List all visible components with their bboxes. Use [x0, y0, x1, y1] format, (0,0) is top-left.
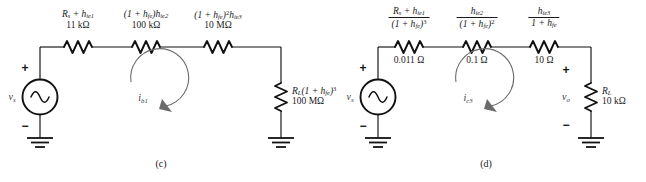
label-hie2-scaled-expr: (1 + hfe)hie2 — [124, 9, 168, 19]
fraction-3: hie3 1 + hfe — [528, 6, 559, 28]
fraction-3-denominator: 1 + hfe — [528, 18, 559, 29]
resistor-load-rl — [585, 83, 597, 111]
output-minus-sign: − — [562, 118, 569, 132]
source-plus-sign-d: + — [359, 61, 366, 75]
label-hie3-over-hfe: hie3 1 + hfe — [528, 6, 559, 28]
label-rs-hie1: Rs + hie1 11 kΩ — [62, 9, 94, 30]
panel-c: Rs + hie1 11 kΩ (1 + hfe)hie2 100 kΩ (1 … — [0, 0, 323, 182]
resistor-hie2-over-hfe2 — [463, 41, 491, 53]
label-value-0011-ohm: 0.011 Ω — [394, 55, 424, 66]
resistor-rs-hie1 — [64, 41, 92, 53]
source-minus-sign: − — [21, 119, 28, 133]
label-load-rl: RL 10 kΩ — [602, 86, 626, 106]
resistor-hie2-scaled — [132, 41, 160, 53]
loop-current-label-ic3: ic3 — [463, 92, 472, 103]
label-hie2-scaled-value: 100 kΩ — [132, 20, 160, 30]
label-load-rl-value: 10 kΩ — [602, 96, 626, 106]
resistor-load-rl-scaled — [275, 83, 287, 111]
loop-current-label-ib1: ib1 — [138, 92, 148, 103]
label-value-01-ohm: 0.1 Ω — [466, 55, 487, 66]
label-load-rl-expr: RL — [602, 86, 611, 96]
resistor-hie3-scaled — [204, 41, 232, 53]
output-plus-sign: + — [562, 63, 569, 77]
fraction-2-numerator: hie2 — [457, 6, 498, 18]
fraction-1: Rs + hie1 (1 + hfe)3 — [389, 6, 430, 29]
fraction-1-denominator: (1 + hfe)3 — [389, 18, 430, 29]
resistor-hie3-over-hfe — [530, 41, 558, 53]
label-hie3-scaled-expr: (1 + hfe)2hie3 — [194, 10, 242, 20]
panel-d-caption: (d) — [480, 158, 492, 169]
label-hie3-scaled-value: 10 MΩ — [204, 20, 231, 30]
label-load-rl-scaled-value: 100 MΩ — [292, 96, 324, 106]
label-rs-hie1-expr: Rs + hie1 — [62, 9, 94, 19]
fraction-2-denominator: (1 + hfe)2 — [457, 18, 498, 29]
circuit-figure: Rs + hie1 11 kΩ (1 + hfe)hie2 100 kΩ (1 … — [0, 0, 646, 182]
panel-c-caption: (c) — [155, 158, 166, 169]
fraction-3-numerator: hie3 — [528, 6, 559, 18]
output-voltage-label-vo: vo — [562, 91, 570, 102]
label-hie2-scaled: (1 + hfe)hie2 100 kΩ — [124, 9, 168, 30]
fraction-2: hie2 (1 + hfe)2 — [457, 6, 498, 29]
label-value-10-ohm: 10 Ω — [535, 55, 554, 66]
label-hie2-over-hfe2: hie2 (1 + hfe)2 — [457, 6, 498, 29]
label-rs-hie1-value: 11 kΩ — [66, 20, 89, 30]
source-label-vs: vs — [8, 91, 15, 102]
panel-d: Rs + hie1 (1 + hfe)3 0.011 Ω hie2 (1 + h… — [323, 0, 646, 182]
source-minus-sign-d: − — [359, 119, 366, 133]
fraction-1-numerator: Rs + hie1 — [389, 6, 430, 18]
loop-current-arrowhead-d — [484, 99, 497, 112]
source-label-vs-d: vs — [346, 91, 353, 102]
source-plus-sign: + — [21, 61, 28, 75]
loop-current-arrowhead — [159, 99, 172, 112]
resistor-rs-hie1-over-hfe3 — [395, 41, 423, 53]
label-rs-hie1-over-hfe3: Rs + hie1 (1 + hfe)3 — [389, 6, 430, 29]
label-hie3-scaled: (1 + hfe)2hie3 10 MΩ — [194, 9, 242, 31]
